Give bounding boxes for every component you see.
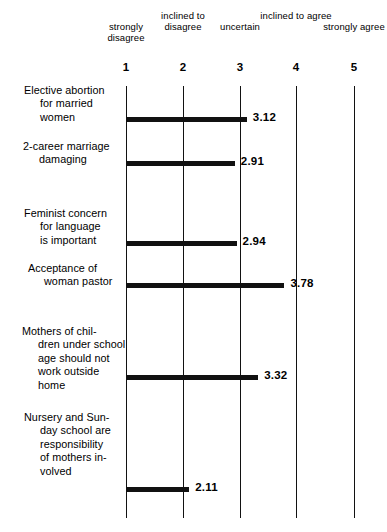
gridline-2 <box>183 86 184 518</box>
plot-area: Elective abortion for married women 3.12… <box>0 86 387 518</box>
bar-two-career-marriage <box>126 161 235 166</box>
gridline-3 <box>240 86 241 518</box>
scale-tick-3: 3 <box>220 61 260 73</box>
row-label-woman-pastor: Acceptance of woman pastor <box>28 262 140 289</box>
bar-value-woman-pastor: 3.78 <box>290 277 313 289</box>
bar-value-two-career-marriage: 2.91 <box>241 155 264 167</box>
scale-tick-5: 5 <box>334 61 374 73</box>
row-label-two-career-marriage: 2-career marriage damaging <box>23 140 141 167</box>
scale-anchor-5: strongly agree <box>317 22 387 33</box>
bar-nursery-sunday-school <box>126 487 189 492</box>
row-label-feminist-concern-language: Feminist concern for language is importa… <box>24 207 140 247</box>
scale-anchor-3: uncertain <box>203 22 277 33</box>
bar-mothers-work-outside <box>126 375 258 380</box>
bar-feminist-concern-language <box>126 241 237 246</box>
bar-value-elective-abortion: 3.12 <box>253 111 276 123</box>
scale-tick-2: 2 <box>163 61 203 73</box>
scale-tick-4: 4 <box>276 61 316 73</box>
row-label-nursery-sunday-school: Nursery and Sun- day school are responsi… <box>24 411 142 478</box>
bar-value-mothers-work-outside: 3.32 <box>264 369 287 381</box>
bar-woman-pastor <box>126 283 284 288</box>
row-label-elective-abortion: Elective abortion for married women <box>24 84 140 124</box>
row-label-mothers-work-outside: Mothers of chil- dren under school age s… <box>22 325 142 392</box>
gridline-4 <box>296 86 297 518</box>
scale-anchor-4: inclined to agree <box>259 11 333 22</box>
survey-bar-chart: strongly disagree inclined to disagree u… <box>0 0 387 532</box>
bar-value-nursery-sunday-school: 2.11 <box>195 481 218 493</box>
scale-header: strongly disagree inclined to disagree u… <box>0 0 387 86</box>
bar-elective-abortion <box>126 117 247 122</box>
scale-tick-1: 1 <box>106 61 146 73</box>
bar-value-feminist-concern-language: 2.94 <box>243 235 266 247</box>
gridline-5 <box>354 86 355 518</box>
